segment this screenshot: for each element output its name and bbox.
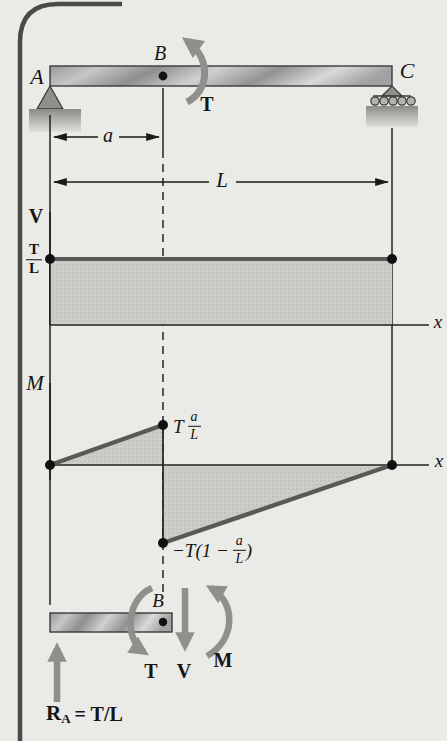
label-dim-a: a <box>103 125 113 145</box>
moment-min-close: ) <box>246 541 252 560</box>
point-b-dot <box>159 72 168 81</box>
fbd-beam-segment <box>50 613 172 632</box>
fbd-point-b-dot <box>159 618 167 626</box>
shear-value-fraction: T L <box>26 241 42 277</box>
fbd-torque-label: T <box>144 661 157 681</box>
label-b: B <box>154 43 166 63</box>
moment-min-prefix: −T(1 − <box>172 541 229 560</box>
ground-block-right <box>366 106 418 127</box>
moment-min-label: −T(1 − a L ) <box>172 534 252 566</box>
label-c: C <box>400 60 415 82</box>
moment-peak-coef: T <box>173 417 184 436</box>
moment-peak-numerator: a <box>188 410 201 427</box>
shear-endpoint-right <box>387 254 397 264</box>
moment-point-min <box>158 538 168 548</box>
reaction-value: = T/L <box>75 703 123 723</box>
moment-point-peak <box>158 420 168 430</box>
fbd-moment-arrow-icon <box>207 588 229 656</box>
pin-support-icon <box>37 86 63 109</box>
beam-assembly <box>29 41 418 132</box>
beam <box>50 66 392 86</box>
shear-axis-label: V <box>29 206 43 226</box>
moment-peak-label: T a L <box>173 410 201 442</box>
free-body-diagram <box>50 588 229 702</box>
shear-x-axis-label: x <box>434 312 442 331</box>
moment-axis-label: M <box>26 373 44 394</box>
reaction-symbol: R <box>46 703 61 724</box>
moment-min-denominator: L <box>235 551 243 567</box>
moment-peak-denominator: L <box>190 427 198 443</box>
fbd-shear-label: V <box>177 661 191 681</box>
reaction-subscript: A <box>61 712 70 725</box>
moment-point-a <box>45 460 55 470</box>
moment-diagram <box>45 383 429 548</box>
label-dim-l: L <box>216 170 228 191</box>
moment-x-axis-label: x <box>435 451 443 470</box>
moment-min-numerator: a <box>233 534 246 551</box>
figure-canvas: A B C T a L V T L x M x T a L −T(1 − a L… <box>0 0 447 741</box>
shear-area-fill <box>50 259 392 325</box>
shear-value-numerator: T <box>26 242 42 260</box>
shear-endpoint-left <box>45 254 55 264</box>
fbd-label-b: B <box>152 591 164 610</box>
roller-support-icon <box>382 86 402 96</box>
label-torque: T <box>200 94 213 114</box>
roller-wheels-icon <box>371 97 415 105</box>
reaction-label: R A = T/L <box>46 703 123 724</box>
moment-point-c <box>387 460 397 470</box>
shear-diagram <box>45 212 429 325</box>
diagram-graphics <box>0 0 447 741</box>
fbd-moment-label: M <box>214 650 233 670</box>
ground-block-left <box>29 109 81 132</box>
shear-value-denominator: L <box>29 260 39 277</box>
label-a: A <box>30 66 43 88</box>
